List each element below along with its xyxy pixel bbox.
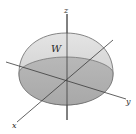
hemisphere-base <box>19 57 113 105</box>
x-axis-label: x <box>12 121 17 130</box>
y-axis-label: y <box>125 97 131 106</box>
region-label: W <box>51 43 62 54</box>
hemisphere-diagram: z x y W <box>0 0 136 134</box>
z-axis-label: z <box>63 6 69 15</box>
